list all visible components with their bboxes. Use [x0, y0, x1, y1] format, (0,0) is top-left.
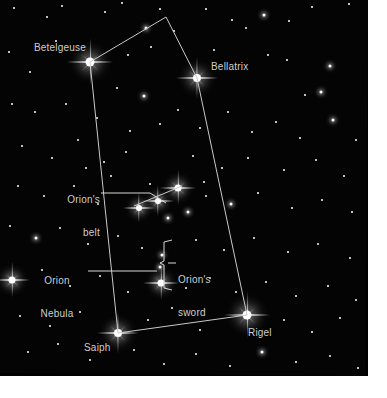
constellation-line — [134, 186, 182, 206]
label-bellatrix: Bellatrix — [211, 61, 248, 72]
label-orion-nebula-line2: Nebula — [28, 308, 86, 319]
constellation-line — [166, 17, 197, 78]
label-orions-sword-line2: sword — [178, 307, 211, 318]
label-saiph: Saiph — [84, 342, 111, 353]
label-bellatrix-text: Bellatrix — [211, 61, 248, 72]
leader-line-orions-belt — [101, 193, 166, 203]
label-orions-belt: Orion's belt — [36, 172, 100, 260]
label-betelgeuse: Betelgeuse — [20, 42, 86, 53]
constellation-line — [90, 17, 166, 62]
night-sky-photo: Betelgeuse Bellatrix Rigel Saiph Orion's… — [0, 0, 368, 376]
orions-sword-bracket — [160, 240, 172, 290]
label-orions-belt-line2: belt — [36, 227, 100, 238]
label-orion-nebula: Orion Nebula — [28, 253, 86, 341]
label-betelgeuse-text: Betelgeuse — [34, 42, 86, 53]
label-orions-belt-line1: Orion's — [36, 194, 100, 205]
label-orion-nebula-line1: Orion — [28, 275, 86, 286]
star-chart-image: Betelgeuse Bellatrix Rigel Saiph Orion's… — [0, 0, 387, 398]
label-orions-sword-line1: Orion's — [178, 274, 211, 285]
label-rigel-text: Rigel — [248, 327, 272, 338]
label-orions-sword: Orion's sword — [178, 252, 211, 340]
label-rigel: Rigel — [248, 327, 272, 338]
label-saiph-text: Saiph — [84, 342, 111, 353]
